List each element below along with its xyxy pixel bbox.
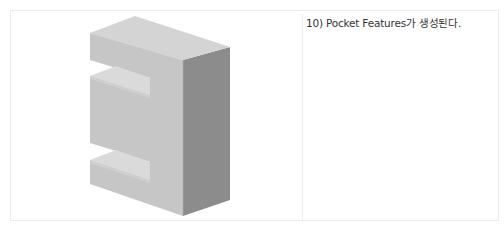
column-divider — [302, 14, 303, 220]
3d-block-icon — [0, 0, 302, 231]
step-caption: 10) Pocket Features가 생성된다. — [306, 15, 461, 30]
pocket-feature-figure — [0, 0, 302, 231]
